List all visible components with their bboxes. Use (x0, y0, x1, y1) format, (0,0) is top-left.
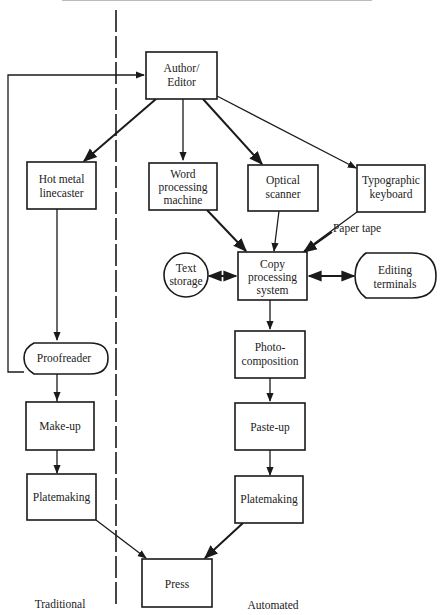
svg-text:processing: processing (248, 271, 297, 284)
edge-scanner-to-copy (274, 211, 279, 251)
svg-text:scanner: scanner (265, 188, 300, 200)
node-hot-metal-linecaster: Hot metal linecaster (27, 162, 96, 209)
node-text-storage: Text storage (164, 253, 208, 297)
svg-text:Hot metal: Hot metal (39, 173, 85, 185)
edge-platemaking-right-to-press (205, 523, 243, 558)
node-copy-processing-system: Copy processing system (238, 252, 307, 300)
svg-text:processing: processing (158, 181, 207, 194)
edge-platemaking-left-to-press (96, 520, 146, 558)
svg-text:linecaster: linecaster (39, 187, 83, 199)
svg-text:machine: machine (164, 194, 203, 206)
svg-text:system: system (257, 284, 289, 297)
node-platemaking-traditional: Platemaking (27, 474, 96, 520)
svg-text:Copy: Copy (260, 258, 285, 271)
svg-text:Word: Word (170, 168, 196, 180)
node-photo-composition: Photo- composition (235, 331, 305, 378)
svg-text:Paste-up: Paste-up (250, 421, 290, 434)
node-optical-scanner: Optical scanner (248, 165, 318, 211)
svg-text:composition: composition (242, 355, 299, 368)
node-editing-terminals: Editing terminals (355, 253, 436, 298)
svg-text:Make-up: Make-up (39, 420, 81, 433)
svg-text:Optical: Optical (266, 174, 300, 187)
edge-author-to-keyboard (217, 96, 356, 168)
edge-author-to-scanner (203, 99, 262, 164)
svg-text:Author/: Author/ (164, 62, 201, 74)
node-press: Press (142, 559, 212, 607)
svg-text:Editor: Editor (167, 76, 196, 88)
node-platemaking-automated: Platemaking (235, 476, 303, 523)
section-label-automated: Automated (247, 599, 298, 611)
edge-wordproc-to-copy (207, 210, 246, 251)
node-typographic-keyboard: Typographic keyboard (357, 165, 425, 212)
node-make-up: Make-up (26, 402, 94, 450)
node-word-processing-machine: Word processing machine (149, 163, 217, 210)
paper-tape-label: Paper tape (333, 222, 381, 235)
svg-text:Press: Press (165, 578, 190, 590)
svg-text:Editing: Editing (378, 264, 412, 277)
svg-text:Text: Text (176, 262, 197, 274)
svg-text:Typographic: Typographic (362, 174, 420, 187)
svg-text:keyboard: keyboard (370, 188, 413, 201)
svg-text:terminals: terminals (374, 278, 417, 290)
edge-proofreader-to-author (8, 75, 144, 372)
section-label-traditional: Traditional (35, 598, 86, 610)
node-author-editor: Author/ Editor (146, 52, 217, 99)
svg-text:Photo-: Photo- (255, 341, 286, 353)
svg-text:Platemaking: Platemaking (33, 491, 91, 504)
node-paste-up: Paste-up (235, 403, 305, 450)
svg-text:Proofreader: Proofreader (37, 352, 91, 364)
publishing-flow-diagram: Author/ Editor Hot metal linecaster Word… (0, 0, 444, 615)
svg-text:storage: storage (169, 275, 202, 288)
edge-keyboard-to-copy (304, 232, 332, 252)
svg-text:Platemaking: Platemaking (240, 493, 298, 506)
node-proofreader: Proofreader (24, 343, 108, 374)
edge-author-to-hotmetal (84, 99, 156, 161)
